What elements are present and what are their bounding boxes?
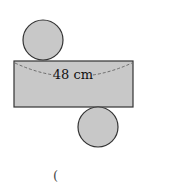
cylinder-net-diagram: 48 cm ( xyxy=(0,0,190,192)
bottom-circle xyxy=(78,107,118,147)
length-label: 48 cm xyxy=(53,67,93,82)
top-circle xyxy=(23,20,63,60)
answer-paren: ( xyxy=(53,168,58,183)
